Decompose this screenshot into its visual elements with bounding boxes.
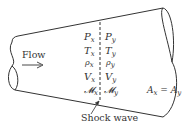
flow-label: Flow (22, 50, 45, 60)
mach-y: 𝓜y (104, 86, 118, 97)
velocity-x: Vx (84, 72, 95, 84)
velocity-y: Vy (105, 72, 116, 84)
duct-diagram (0, 0, 195, 130)
temperature-y: Ty (105, 46, 116, 58)
shock-wave-label: Shock wave (81, 113, 138, 123)
density-y: ρy (106, 59, 115, 69)
outlet-end (162, 8, 177, 117)
pressure-y: Py (105, 32, 116, 44)
mach-x: 𝓜x (84, 86, 98, 97)
inlet-end (8, 42, 17, 90)
pressure-x: Px (84, 32, 95, 44)
area-equation: Ax = Ay (147, 86, 181, 97)
density-x: ρx (85, 59, 94, 69)
temperature-x: Tx (84, 46, 95, 58)
